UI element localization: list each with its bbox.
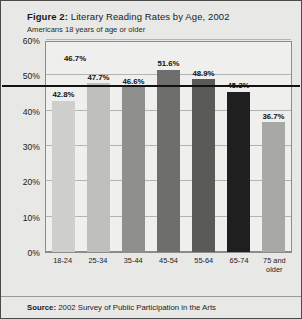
bar[interactable]: 51.6% bbox=[157, 70, 181, 252]
x-axis-tick: 65-74 bbox=[221, 254, 256, 274]
y-axis-tick: 20% bbox=[23, 177, 40, 187]
bar[interactable]: 48.9% bbox=[192, 79, 216, 252]
average-reference-label: 46.7% bbox=[64, 54, 86, 63]
bar-slot: 47.7% bbox=[81, 42, 116, 252]
y-axis-tick: 30% bbox=[23, 142, 40, 152]
source-text: 2002 Survey of Public Participation in t… bbox=[58, 303, 216, 312]
y-axis: 60%50%40%30%20%10%0% bbox=[1, 41, 45, 253]
bar[interactable]: 46.6% bbox=[122, 87, 146, 252]
bar-slot: 51.6% bbox=[151, 42, 186, 252]
average-reference-line bbox=[2, 85, 300, 87]
chart-region: 60%50%40%30%20%10%0% 42.8%47.7%46.6%51.6… bbox=[1, 41, 301, 273]
bar-slot: 36.7% bbox=[256, 42, 291, 252]
y-axis-tick: 60% bbox=[23, 36, 40, 46]
source-note: Source: 2002 Survey of Public Participat… bbox=[27, 303, 216, 312]
bar-slot: 48.9% bbox=[186, 42, 221, 252]
bar[interactable]: 42.8% bbox=[52, 101, 76, 252]
y-axis-tick: 50% bbox=[23, 71, 40, 81]
bar[interactable]: 47.7% bbox=[87, 83, 111, 252]
gridline bbox=[46, 39, 291, 40]
x-axis-tick: 25-34 bbox=[80, 254, 115, 274]
bar-slot: 42.8% bbox=[46, 42, 81, 252]
bar-value-label: 47.7% bbox=[87, 73, 109, 82]
footer-divider bbox=[1, 296, 301, 297]
x-axis-tick: 35-44 bbox=[116, 254, 151, 274]
x-axis-tick: 55-64 bbox=[186, 254, 221, 274]
bar-value-label: 36.7% bbox=[262, 112, 284, 121]
bar-value-label: 42.8% bbox=[52, 90, 74, 99]
x-axis-tick: 18-24 bbox=[45, 254, 80, 274]
figure-title-text: Literary Reading Rates by Age, 2002 bbox=[71, 11, 230, 22]
y-axis-tick: 0% bbox=[28, 248, 40, 258]
x-axis-tick: 75 and older bbox=[257, 254, 292, 274]
source-label: Source: bbox=[27, 303, 56, 312]
x-axis: 18-2425-3435-4445-5455-6465-7475 and old… bbox=[45, 254, 292, 274]
bar[interactable]: 45.3% bbox=[227, 92, 251, 252]
bar-slot: 46.6% bbox=[116, 42, 151, 252]
x-axis-tick: 45-54 bbox=[151, 254, 186, 274]
bar-value-label: 51.6% bbox=[157, 59, 179, 68]
bar-series: 42.8%47.7%46.6%51.6%48.9%45.3%36.7% bbox=[46, 42, 291, 252]
figure-header: Figure 2: Literary Reading Rates by Age,… bbox=[1, 1, 301, 36]
bar-slot: 45.3% bbox=[221, 42, 256, 252]
figure-subtitle: Americans 18 years of age or older bbox=[27, 25, 289, 34]
figure-card: Figure 2: Literary Reading Rates by Age,… bbox=[0, 0, 302, 319]
y-axis-tick: 10% bbox=[23, 213, 40, 223]
y-axis-tick: 40% bbox=[23, 107, 40, 117]
figure-title: Figure 2: Literary Reading Rates by Age,… bbox=[27, 11, 289, 23]
bar[interactable]: 36.7% bbox=[262, 122, 286, 252]
bar-value-label: 48.9% bbox=[192, 69, 214, 78]
figure-number: Figure 2: bbox=[27, 11, 68, 22]
plot-area: 42.8%47.7%46.6%51.6%48.9%45.3%36.7% bbox=[45, 41, 292, 253]
